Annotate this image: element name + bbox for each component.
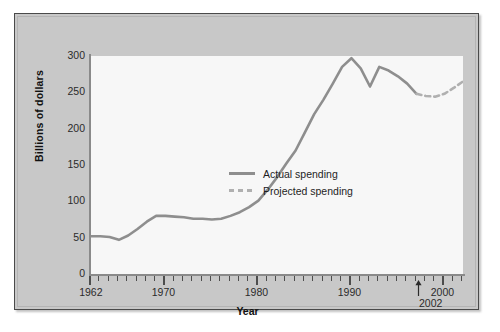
- x-axis-minor-tick: [396, 276, 397, 281]
- x-axis-minor-tick: [117, 276, 118, 281]
- x-axis-minor-tick: [359, 276, 360, 281]
- series-projected-spending-line: [417, 81, 464, 96]
- y-axis-tick-label: 250: [45, 86, 85, 97]
- x-axis-major-tick: [349, 276, 351, 285]
- x-axis-tick-label: 1990: [338, 286, 361, 298]
- x-axis-minor-tick: [424, 276, 425, 281]
- x-axis-minor-tick: [322, 276, 323, 281]
- x-axis-minor-tick: [219, 276, 220, 281]
- legend-dashed-line-icon: [229, 186, 255, 195]
- x-axis-minor-tick: [284, 276, 285, 281]
- legend-label: Projected spending: [263, 185, 353, 197]
- legend-solid-line-icon: [229, 169, 255, 178]
- x-axis-minor-tick: [229, 276, 230, 281]
- x-axis-minor-tick: [266, 276, 267, 281]
- x-axis-minor-tick: [368, 276, 369, 281]
- x-axis-minor-tick: [377, 276, 378, 281]
- x-axis-minor-tick: [433, 276, 434, 281]
- chart-legend: Actual spendingProjected spending: [229, 166, 353, 200]
- x-axis-minor-tick: [98, 276, 99, 281]
- x-axis-title: Year: [15, 305, 480, 317]
- x-axis-ticks: [89, 276, 465, 286]
- legend-item: Projected spending: [229, 183, 353, 198]
- x-axis-tick-label: 2000: [431, 286, 454, 298]
- y-axis-tick-label: 200: [45, 123, 85, 134]
- x-axis-tick-label: 1962: [79, 286, 102, 298]
- x-axis-minor-tick: [238, 276, 239, 281]
- x-axis-minor-tick: [136, 276, 137, 281]
- x-axis-minor-tick: [154, 276, 155, 281]
- x-axis-minor-tick: [247, 276, 248, 281]
- x-axis-major-tick: [256, 276, 258, 285]
- y-axis-tick-label: 50: [45, 232, 85, 243]
- x-axis-minor-tick: [312, 276, 313, 281]
- x-axis-minor-tick: [191, 276, 192, 281]
- x-axis-minor-tick: [461, 276, 462, 281]
- y-axis-tick-label: 0: [45, 268, 85, 279]
- x-axis-minor-tick: [387, 276, 388, 281]
- x-axis-minor-tick: [303, 276, 304, 281]
- y-axis-tick-labels: 300250200150100500: [39, 14, 85, 311]
- x-axis-major-tick: [163, 276, 165, 285]
- x-axis-major-tick: [442, 276, 444, 285]
- end-year-arrow-icon: [414, 280, 423, 296]
- chart-canvas: [91, 56, 463, 274]
- x-axis-major-tick: [89, 276, 91, 285]
- y-axis-tick-label: 150: [45, 159, 85, 170]
- x-axis-minor-tick: [145, 276, 146, 281]
- x-axis-minor-tick: [210, 276, 211, 281]
- x-axis-minor-tick: [331, 276, 332, 281]
- x-axis-minor-tick: [173, 276, 174, 281]
- x-axis-minor-tick: [340, 276, 341, 281]
- x-axis-minor-tick: [126, 276, 127, 281]
- x-axis-minor-tick: [182, 276, 183, 281]
- x-axis-minor-tick: [452, 276, 453, 281]
- plot-area: [91, 56, 463, 274]
- y-axis-tick-label: 100: [45, 195, 85, 206]
- x-axis-tick-label: 1970: [152, 286, 175, 298]
- y-axis-tick-label: 300: [45, 50, 85, 61]
- x-axis-minor-tick: [201, 276, 202, 281]
- x-axis-minor-tick: [108, 276, 109, 281]
- legend-label: Actual spending: [263, 168, 338, 180]
- legend-item: Actual spending: [229, 166, 353, 181]
- figure-panel: Billions of dollars 300250200150100500 2…: [14, 13, 479, 310]
- series-actual-spending-line: [91, 58, 417, 240]
- x-axis-minor-tick: [275, 276, 276, 281]
- x-axis-minor-tick: [405, 276, 406, 281]
- x-axis-tick-label: 1980: [245, 286, 268, 298]
- x-axis-minor-tick: [294, 276, 295, 281]
